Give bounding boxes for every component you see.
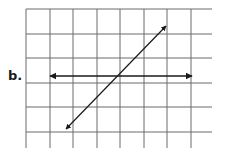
grid-diagram xyxy=(0,0,226,155)
grid xyxy=(26,9,212,148)
diagonal-line-with-arrows xyxy=(66,26,166,129)
